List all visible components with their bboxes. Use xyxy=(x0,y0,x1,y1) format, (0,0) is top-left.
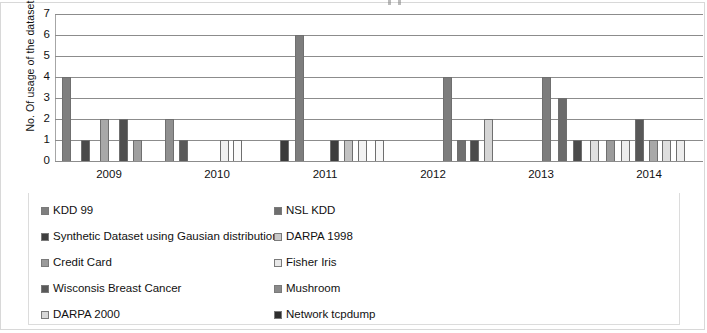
legend-item[interactable]: Fisher Iris xyxy=(274,255,336,271)
bar xyxy=(484,119,493,161)
legend-swatch-mushroom xyxy=(274,285,282,293)
y-tick-label-3: 3 xyxy=(30,92,50,104)
y-tick-label-4: 4 xyxy=(30,71,50,83)
legend-swatch-credit-card xyxy=(41,259,49,267)
bar xyxy=(375,140,384,161)
bar xyxy=(606,140,615,161)
bar xyxy=(649,140,658,161)
legend-label: NSL KDD xyxy=(286,205,335,217)
legend-swatch-darpa-2000 xyxy=(41,311,49,319)
legend-label: DARPA 1998 xyxy=(286,231,353,243)
bar xyxy=(280,140,289,161)
bar xyxy=(295,35,304,161)
x-tick-label-2014: 2014 xyxy=(614,168,684,180)
x-tick-label-2013: 2013 xyxy=(506,168,576,180)
bar xyxy=(590,140,599,161)
bar xyxy=(233,140,242,161)
legend-swatch-synthetic-dataset xyxy=(41,233,49,241)
legend-label: Fisher Iris xyxy=(286,257,336,269)
y-tick-label-1: 1 xyxy=(30,134,50,146)
x-tick-label-2011: 2011 xyxy=(290,168,360,180)
legend-item[interactable]: DARPA 2000 xyxy=(41,307,120,323)
y-tick-label-7: 7 xyxy=(30,8,50,20)
legend-label: KDD 99 xyxy=(53,205,93,217)
top-clipped-artifact xyxy=(388,0,410,5)
legend-swatch-kdd-99 xyxy=(41,207,49,215)
chart-figure: No. Of usage of the dataset 01234567 200… xyxy=(0,0,707,333)
bar xyxy=(470,140,479,161)
chart-legend: KDD 99NSL KDDSynthetic Dataset using Gau… xyxy=(28,193,680,325)
y-tick-label-2: 2 xyxy=(30,113,50,125)
y-tick-label-5: 5 xyxy=(30,50,50,62)
bar xyxy=(133,140,142,161)
legend-label: Credit Card xyxy=(53,257,112,269)
bar xyxy=(179,140,188,161)
bar xyxy=(119,119,128,161)
bar xyxy=(676,140,685,161)
legend-swatch-fisher-iris xyxy=(274,259,282,267)
bar-series-container xyxy=(55,14,703,161)
bar xyxy=(558,98,567,161)
legend-label: Mushroom xyxy=(286,283,340,295)
bar xyxy=(573,140,582,161)
bar xyxy=(457,140,466,161)
bar xyxy=(662,140,671,161)
legend-swatch-wisconsis-breast-cancer xyxy=(41,285,49,293)
y-tick-label-0: 0 xyxy=(30,155,50,167)
bar xyxy=(344,140,353,161)
legend-item[interactable]: Network tcpdump xyxy=(274,307,375,323)
legend-label: DARPA 2000 xyxy=(53,309,120,321)
y-axis-tick-labels: 01234567 xyxy=(24,14,50,161)
bar xyxy=(330,140,339,161)
bar xyxy=(635,119,644,161)
x-tick-label-2012: 2012 xyxy=(398,168,468,180)
bar xyxy=(165,119,174,161)
legend-swatch-nsl-kdd xyxy=(274,207,282,215)
bar xyxy=(443,77,452,161)
bar xyxy=(62,77,71,161)
legend-item[interactable]: DARPA 1998 xyxy=(274,229,353,245)
bar xyxy=(81,140,90,161)
legend-item[interactable]: Mushroom xyxy=(274,281,340,297)
legend-item[interactable]: Wisconsis Breast Cancer xyxy=(41,281,181,297)
x-axis-tick-labels: 200920102011201220132014 xyxy=(55,168,703,186)
legend-label: Network tcpdump xyxy=(286,309,375,321)
legend-item[interactable]: KDD 99 xyxy=(41,203,93,219)
legend-swatch-darpa-1998 xyxy=(274,233,282,241)
bar xyxy=(621,140,630,161)
x-tick-label-2010: 2010 xyxy=(182,168,252,180)
bar xyxy=(358,140,367,161)
bar xyxy=(100,119,109,161)
legend-swatch-network-tcpdump xyxy=(274,311,282,319)
legend-label: Wisconsis Breast Cancer xyxy=(53,283,181,295)
legend-item[interactable]: Credit Card xyxy=(41,255,112,271)
bar xyxy=(542,77,551,161)
bar xyxy=(220,140,229,161)
legend-item[interactable]: NSL KDD xyxy=(274,203,335,219)
legend-item[interactable]: Synthetic Dataset using Gausian distribu… xyxy=(41,229,279,245)
plot-area xyxy=(55,14,703,161)
legend-label: Synthetic Dataset using Gausian distribu… xyxy=(53,231,279,243)
x-tick-label-2009: 2009 xyxy=(74,168,144,180)
y-tick-label-6: 6 xyxy=(30,29,50,41)
